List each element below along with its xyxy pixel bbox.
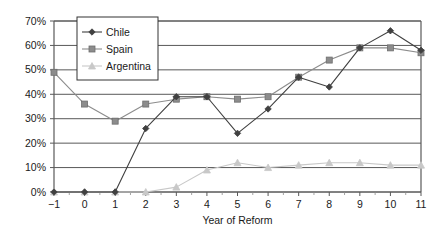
line-chart: 0%10%20%30%40%50%60%70%−101234567891011Y… [0,0,440,235]
legend-label-spain: Spain [106,43,133,55]
legend-label-chile: Chile [106,26,130,38]
legend-label-argentina: Argentina [106,60,151,72]
xtick-label-6: 6 [265,198,271,210]
xtick-label--1: −1 [48,198,60,210]
marker-square [143,101,149,107]
xtick-label-3: 3 [173,198,179,210]
legend: ChileSpainArgentina [77,17,158,80]
xtick-label-0: 0 [82,198,88,210]
chart-container: 0%10%20%30%40%50%60%70%−101234567891011Y… [0,0,440,235]
marker-square [265,94,271,100]
ytick-label-0: 0% [31,186,46,198]
xtick-label-8: 8 [326,198,332,210]
ytick-label-30: 30% [25,112,46,124]
marker-square [387,45,393,51]
ytick-label-40: 40% [25,88,46,100]
xtick-label-1: 1 [112,198,118,210]
x-axis-title: Year of Reform [202,214,272,226]
ytick-label-20: 20% [25,137,46,149]
xtick-label-5: 5 [235,198,241,210]
xtick-label-7: 7 [296,198,302,210]
marker-square [51,69,57,75]
marker-square [82,101,88,107]
ytick-label-60: 60% [25,39,46,51]
ytick-label-10: 10% [25,161,46,173]
xtick-label-11: 11 [416,198,427,210]
ytick-label-70: 70% [25,15,46,27]
marker-square [89,46,95,52]
xtick-label-2: 2 [143,198,149,210]
xtick-label-4: 4 [204,198,210,210]
xtick-label-10: 10 [385,198,397,210]
xtick-label-9: 9 [357,198,363,210]
marker-square [112,118,118,124]
marker-square [326,57,332,63]
ytick-label-50: 50% [25,63,46,75]
marker-square [235,96,241,102]
x-axis-ticks: −101234567891011 [48,192,427,210]
